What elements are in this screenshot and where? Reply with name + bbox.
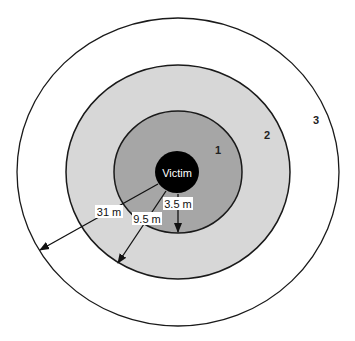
victim-label: Victim: [162, 167, 192, 179]
radius-label-zone-1: 3.5 m: [164, 198, 192, 210]
concentric-zone-diagram: Victim 3.5 m 9.5 m 31 m 1 2 3: [0, 0, 355, 341]
radius-label-zone-2: 9.5 m: [133, 213, 161, 225]
radius-label-zone-3: 31 m: [97, 206, 121, 218]
zone-1-label: 1: [215, 144, 221, 156]
zone-3-label: 3: [313, 114, 319, 126]
zone-2-label: 2: [264, 129, 270, 141]
